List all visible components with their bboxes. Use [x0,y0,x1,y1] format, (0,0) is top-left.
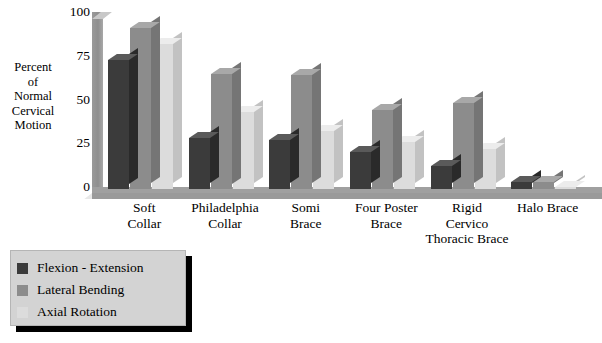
bar-0-3 [350,152,371,189]
x-axis-category-label-line: Cervico [407,216,527,232]
y-axis-tick-label: 25 [56,136,90,150]
chart-floor-front [92,193,602,199]
bar-side [232,61,241,183]
bar-side [129,47,138,183]
bar-face [269,140,290,189]
bar-0-4 [431,166,452,189]
bar-face [108,60,129,190]
y-axis-title-line: Motion [4,118,62,133]
bar-group [269,8,334,189]
bar-side [312,63,321,183]
y-axis-tick-label: 50 [56,93,90,107]
bar-side [254,100,263,183]
x-axis-category-label: Halo Brace [488,200,602,216]
bar-group [189,8,254,189]
y-axis-title-line: of [4,75,62,90]
bar-1-5 [533,182,554,189]
y-axis-title-line: Normal [4,89,62,104]
bar-face [431,166,452,189]
bar-2-5 [555,187,576,189]
bar-face [350,152,371,189]
legend-item[interactable]: Lateral Bending [17,279,185,301]
bar-0-0 [108,60,129,190]
bar-face [189,138,210,189]
bar-group [350,8,415,189]
bar-0-1 [189,138,210,189]
legend-swatch-icon [17,307,28,318]
chart-back-wall [92,12,103,193]
y-axis-title-line: Cervical [4,104,62,119]
bar-0-2 [269,140,290,189]
bar-side [173,32,182,183]
x-axis-category-label-line: Halo Brace [488,200,602,216]
bar-0-5 [511,182,532,189]
chart-plot-area [92,6,602,201]
legend-label: Flexion - Extension [37,261,144,275]
bar-side [151,16,160,183]
legend-label: Lateral Bending [37,283,124,297]
legend-item[interactable]: Axial Rotation [17,301,185,323]
legend-swatch-icon [17,263,28,274]
y-axis-title: PercentofNormalCervicalMotion [4,60,62,133]
y-axis-tick-label: 100 [56,5,90,19]
bar-face [511,182,532,189]
bar-side [393,98,402,183]
y-axis-tick-label: 0 [56,180,90,194]
bar-face [533,182,554,189]
bar-group [511,8,576,189]
bar-group [108,8,173,189]
legend-label: Axial Rotation [37,305,117,319]
legend-item[interactable]: Flexion - Extension [17,257,185,279]
chart-legend: Flexion - ExtensionLateral BendingAxial … [10,250,186,326]
bar-group [431,8,496,189]
bar-face [555,187,576,189]
x-axis-category-label-line: Thoracic Brace [407,231,527,247]
y-axis-tick-label: 75 [56,49,90,63]
bar-side [474,91,483,183]
y-axis-title-line: Percent [4,60,62,75]
legend-swatch-icon [17,285,28,296]
y-axis-tick-labels: 0255075100 [56,0,90,200]
